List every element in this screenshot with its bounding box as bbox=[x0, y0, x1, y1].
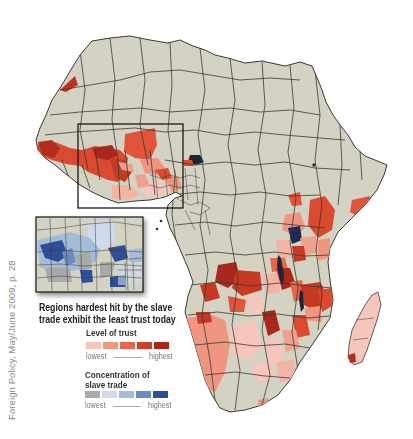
caption-line-2: trade exhibit the least trust today bbox=[39, 313, 162, 325]
slave-trade-legend-scale: lowest highest bbox=[85, 400, 171, 410]
scale-line bbox=[113, 406, 141, 407]
trust-swatch-4 bbox=[137, 342, 152, 349]
slave-trade-legend-title: Concentration of slave trade bbox=[85, 370, 150, 390]
trust-swatch-2 bbox=[103, 342, 118, 349]
map-caption: Regions hardest hit by the slave trade e… bbox=[39, 301, 162, 325]
caption-line-1: Regions hardest hit by the slave bbox=[39, 301, 162, 313]
slave-trade-title-line-2: slave trade bbox=[85, 380, 150, 390]
trust-swatch-5 bbox=[154, 342, 169, 349]
slave-low-label: lowest bbox=[85, 400, 105, 410]
trust-swatch-1 bbox=[86, 342, 101, 349]
slave-swatch-5 bbox=[153, 391, 168, 398]
africa-map bbox=[0, 0, 413, 439]
trust-legend-title: Level of trust bbox=[86, 328, 137, 338]
trust-low-label: lowest bbox=[86, 351, 106, 361]
source-citation: Foreign Policy, May/June 2009, p. 28 bbox=[6, 260, 17, 420]
trust-legend-scale: lowest highest bbox=[86, 351, 172, 361]
island bbox=[160, 220, 163, 223]
trust-swatch-3 bbox=[120, 342, 135, 349]
trust-high-label: highest bbox=[149, 351, 172, 361]
slave-swatch-4 bbox=[136, 391, 151, 398]
slave-swatch-3 bbox=[119, 391, 134, 398]
slave-high-label: highest bbox=[148, 400, 171, 410]
island bbox=[156, 228, 159, 231]
slave-swatch-1 bbox=[85, 391, 100, 398]
slave-swatch-2 bbox=[102, 391, 117, 398]
slave-trade-legend-swatches bbox=[85, 391, 168, 398]
trust-legend-swatches bbox=[86, 342, 169, 349]
scale-line bbox=[114, 357, 142, 358]
island bbox=[312, 163, 316, 167]
